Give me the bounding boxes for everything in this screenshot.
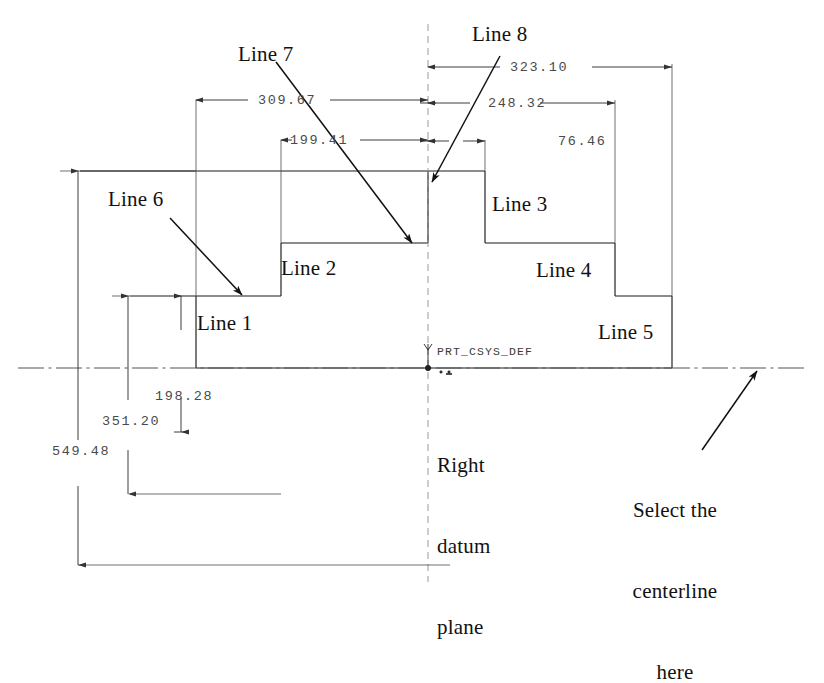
dim-value-549-48[interactable]: 549.48 (52, 444, 110, 459)
select-centerline-line-1: Select the (600, 497, 750, 524)
right-datum-line-2: datum (437, 533, 491, 560)
select-centerline-line-2: centerline (600, 578, 750, 605)
dim-value-199-41[interactable]: 199.41 (290, 133, 348, 148)
label-line-3[interactable]: Line 3 (492, 192, 547, 217)
leader-line-7 (276, 62, 412, 243)
leader-select-centerline (702, 371, 757, 450)
leader-line-8 (432, 56, 500, 182)
label-line-6[interactable]: Line 6 (108, 187, 163, 212)
dim-value-76-46[interactable]: 76.46 (558, 134, 607, 149)
dim-value-323-10[interactable]: 323.10 (510, 60, 568, 75)
right-datum-line-1: Right (437, 452, 491, 479)
annotation-right-datum-plane: Right datum plane (437, 398, 491, 683)
dim-value-248-32[interactable]: 248.32 (488, 96, 546, 111)
label-line-2[interactable]: Line 2 (281, 256, 336, 281)
label-line-7[interactable]: Line 7 (238, 42, 293, 67)
leader-line-6 (170, 218, 242, 295)
dim-value-309-67[interactable]: 309.67 (258, 93, 316, 108)
label-line-5[interactable]: Line 5 (598, 320, 653, 345)
select-centerline-line-3: here (600, 659, 750, 683)
annotation-select-centerline: Select the centerline here (600, 443, 750, 683)
dim-line-198-28[interactable] (174, 296, 188, 432)
label-line-8[interactable]: Line 8 (472, 22, 527, 47)
dim-value-351-20[interactable]: 351.20 (102, 414, 160, 429)
label-line-1[interactable]: Line 1 (197, 311, 252, 336)
right-datum-line-3: plane (437, 614, 491, 641)
leader-arrows (170, 56, 757, 450)
csys-label[interactable]: PRT_CSYS_DEF (437, 345, 533, 358)
label-line-4[interactable]: Line 4 (536, 258, 591, 283)
dim-value-198-28[interactable]: 198.28 (155, 389, 213, 404)
